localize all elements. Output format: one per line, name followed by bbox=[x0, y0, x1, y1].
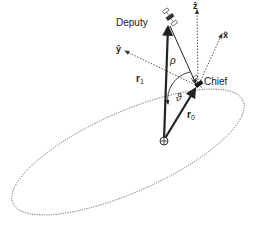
z-axis-label: ẑ bbox=[193, 1, 198, 11]
z-axis-line bbox=[197, 10, 198, 86]
deputy-label: Deputy bbox=[116, 17, 148, 28]
orbit-diagram: Deputy Chief ρ r1 r0 ϑ ẑ x̂ ŷ bbox=[0, 0, 254, 231]
r1-label: r1 bbox=[136, 73, 144, 85]
satellite-icon bbox=[162, 7, 179, 26]
x-axis-label: x̂ bbox=[223, 30, 228, 40]
y-axis-label: ŷ bbox=[116, 44, 121, 54]
earth-center-icon bbox=[160, 137, 168, 145]
chief-orbit-ellipse bbox=[0, 64, 254, 231]
rho-label: ρ bbox=[169, 55, 176, 66]
r0-label: r0 bbox=[187, 109, 195, 121]
theta-label: ϑ bbox=[176, 92, 182, 103]
chief-label: Chief bbox=[204, 76, 228, 87]
r1-vector bbox=[164, 27, 168, 140]
